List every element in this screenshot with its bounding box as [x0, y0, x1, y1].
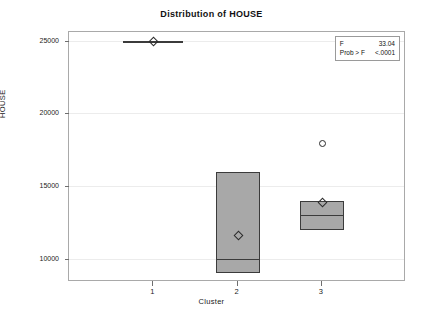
stat-f-value: 33.04 [379, 39, 395, 48]
plot-area: 25000200001500010000 F 33.04 Prob > F <.… [68, 31, 405, 281]
stat-prob-value: <.0001 [375, 48, 395, 57]
gridline [69, 113, 404, 114]
x-tick-label: 3 [309, 287, 333, 296]
x-tick-label: 2 [225, 287, 249, 296]
x-axis-label: Cluster [0, 297, 423, 306]
outlier-point [319, 140, 326, 147]
x-tick-label: 1 [140, 287, 164, 296]
y-tick-label: 10000 [40, 255, 59, 262]
median-line [216, 259, 260, 260]
boxplot-chart: Distribution of HOUSE HOUSE 250002000015… [0, 0, 423, 322]
stat-prob-label: Prob > F [340, 48, 375, 57]
stat-row-prob: Prob > F <.0001 [340, 48, 395, 57]
y-tick-label: 15000 [40, 182, 59, 189]
stat-row-f: F 33.04 [340, 39, 395, 48]
chart-title: Distribution of HOUSE [0, 9, 423, 19]
stat-f-label: F [340, 39, 354, 48]
y-tick-mark [65, 41, 69, 42]
y-tick-label: 25000 [40, 37, 59, 44]
y-tick-label: 20000 [40, 109, 59, 116]
y-tick-mark [65, 113, 69, 114]
x-tick-mark [237, 281, 238, 286]
mean-diamond-marker [149, 36, 159, 46]
y-tick-mark [65, 186, 69, 187]
y-axis-label: HOUSE [0, 89, 7, 118]
y-tick-mark [65, 259, 69, 260]
median-line [300, 215, 344, 216]
statistics-box: F 33.04 Prob > F <.0001 [335, 36, 400, 61]
x-tick-mark [152, 281, 153, 286]
x-tick-mark [321, 281, 322, 286]
